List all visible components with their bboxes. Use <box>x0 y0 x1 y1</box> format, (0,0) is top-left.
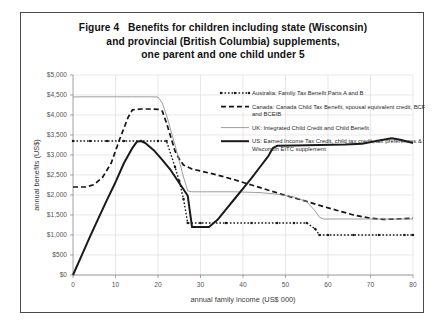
y-tick-label: $3,500 <box>47 131 68 138</box>
y-axis-title: annual benefits (US$) <box>32 139 41 211</box>
y-tick-label: $3,000 <box>47 151 68 158</box>
series-marker-australia <box>72 140 74 142</box>
series-marker-australia <box>327 234 329 236</box>
x-tick-label: 10 <box>112 281 120 288</box>
series-marker-australia <box>225 222 227 224</box>
series-marker-australia <box>306 222 308 224</box>
x-tick-label: 40 <box>239 281 247 288</box>
x-tick-label: 20 <box>154 281 162 288</box>
series-marker-australia <box>187 222 189 224</box>
series-marker-australia <box>250 222 252 224</box>
legend-label-australia: Australia: Family Tax Benefit Parts A an… <box>252 90 364 96</box>
series-marker-australia <box>276 222 278 224</box>
series-marker-australia <box>157 140 159 142</box>
x-tick-label: 50 <box>282 281 290 288</box>
x-tick-label: 0 <box>71 281 75 288</box>
x-tick-label: 80 <box>409 281 417 288</box>
x-tick-label: 70 <box>367 281 375 288</box>
y-tick-label: $5,000 <box>47 71 68 78</box>
series-marker-australia <box>174 166 176 168</box>
series-marker-australia <box>199 222 201 224</box>
series-marker-australia <box>182 198 184 200</box>
series-marker-australia <box>403 234 405 236</box>
series-marker-australia <box>106 140 108 142</box>
y-tick-label: $2,500 <box>47 171 68 178</box>
y-tick-label: $0 <box>60 271 68 278</box>
y-tick-label: $1,000 <box>47 231 68 238</box>
legend-label-us: US: Earned Income Tax Credit, child tax … <box>252 138 422 144</box>
y-tick-label: $4,500 <box>47 91 68 98</box>
legend-label-uk: UK: Integrated Child Credit and Child Be… <box>252 125 369 131</box>
legend-label-canada: Canada: Canada Child Tax Benefit, spousa… <box>252 104 425 110</box>
series-marker-australia <box>123 140 125 142</box>
series-marker-australia <box>412 234 414 236</box>
series-marker-australia <box>165 140 167 142</box>
y-tick-label: $2,000 <box>47 191 68 198</box>
x-tick-label: 30 <box>197 281 205 288</box>
y-tick-label: $4,000 <box>47 111 68 118</box>
x-tick-label: 60 <box>324 281 332 288</box>
x-axis-tick-labels: 01020304050607080 <box>71 281 417 288</box>
series-marker-australia <box>378 234 380 236</box>
x-axis-title: annual family income (US$ 000) <box>190 295 295 304</box>
figure-panel: Figure 4 Benefits for children including… <box>20 12 424 313</box>
series-marker-australia <box>318 234 320 236</box>
y-tick-label: $1,500 <box>47 211 68 218</box>
series-marker-australia <box>293 222 295 224</box>
chart-legend: Australia: Family Tax Benefit Parts A an… <box>220 90 425 152</box>
legend-label-canada: and BCEIB <box>252 111 281 117</box>
chart-plot: $0$500$1,000$1,500$2,000$2,500$3,000$3,5… <box>21 13 425 314</box>
y-tick-label: $500 <box>52 251 67 258</box>
series-marker-australia <box>314 228 316 230</box>
series-marker-australia <box>89 140 91 142</box>
legend-label-us: Wisconsin EITC supplement <box>252 146 326 152</box>
series-marker-australia <box>352 234 354 236</box>
y-axis-tick-labels: $0$500$1,000$1,500$2,000$2,500$3,000$3,5… <box>47 71 68 278</box>
